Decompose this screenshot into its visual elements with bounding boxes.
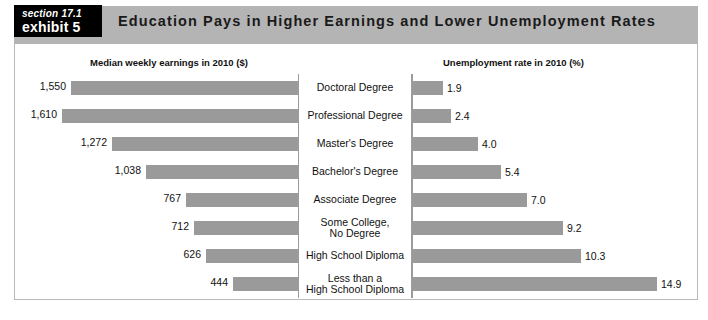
left-bar-cell: 444: [18, 270, 298, 298]
right-bar-cell: 14.9: [412, 270, 681, 298]
right-bar-fill: [412, 165, 501, 179]
category-label-cell: Less than a High School Diploma: [298, 270, 412, 298]
chart-row: 1,038Bachelor's Degree5.4: [0, 158, 708, 186]
left-bar-cell: 1,272: [18, 130, 298, 158]
left-bar-value: 1,610: [31, 108, 57, 120]
right-bar-value: 5.4: [505, 166, 520, 178]
right-bar-cell: 7.0: [412, 186, 546, 214]
category-label-cell: Some College, No Degree: [298, 214, 412, 242]
left-bar-cell: 1,610: [18, 102, 298, 130]
right-bar-fill: [412, 249, 581, 263]
category-label-cell: Bachelor's Degree: [298, 158, 412, 186]
right-bar-value: 4.0: [482, 138, 497, 150]
exhibit-title: Education Pays in Higher Earnings and Lo…: [118, 13, 656, 29]
left-bar-fill: [194, 221, 298, 235]
category-label: Doctoral Degree: [317, 82, 393, 94]
left-bar-fill: [233, 277, 298, 291]
left-bar-value: 1,038: [115, 164, 141, 176]
left-bar-value: 626: [183, 248, 201, 260]
left-bar: [206, 249, 298, 263]
left-bar-value: 767: [163, 192, 181, 204]
chart-row: 626High School Diploma10.3: [0, 242, 708, 270]
left-bar-fill: [146, 165, 298, 179]
badge-section-label: section 17.1: [22, 8, 82, 19]
right-bar-value: 1.9: [447, 82, 462, 94]
left-bar: [146, 165, 298, 179]
right-bar-fill: [412, 109, 451, 123]
left-bar-cell: 1,038: [18, 158, 298, 186]
left-bar-cell: 767: [18, 186, 298, 214]
left-column-header: Median weekly earnings in 2010 ($): [90, 57, 248, 68]
left-bar-value: 444: [210, 276, 228, 288]
right-column-header: Unemployment rate in 2010 (%): [443, 57, 584, 68]
left-bar-cell: 1,550: [18, 74, 298, 102]
right-bar-cell: 10.3: [412, 242, 605, 270]
left-bar-value: 712: [171, 220, 189, 232]
left-bar-value: 1,550: [40, 80, 66, 92]
right-bar-value: 7.0: [531, 194, 546, 206]
left-bar-fill: [112, 137, 298, 151]
exhibit-figure: section 17.1 exhibit 5 Education Pays in…: [0, 0, 708, 320]
exhibit-badge: section 17.1 exhibit 5: [14, 5, 102, 37]
category-label-cell: Professional Degree: [298, 102, 412, 130]
category-label-cell: High School Diploma: [298, 242, 412, 270]
left-bar-fill: [71, 81, 298, 95]
left-bar: [233, 277, 298, 291]
left-bar: [112, 137, 298, 151]
chart-row: 1,550Doctoral Degree1.9: [0, 74, 708, 102]
left-bar-fill: [206, 249, 298, 263]
chart-row: 1,272Master's Degree4.0: [0, 130, 708, 158]
left-bar: [194, 221, 298, 235]
category-label: High School Diploma: [306, 250, 404, 262]
category-label: Some College, No Degree: [321, 217, 390, 240]
right-bar-cell: 9.2: [412, 214, 582, 242]
right-bar-fill: [412, 221, 563, 235]
right-bar-fill: [412, 81, 443, 95]
chart-row: 1,610Professional Degree2.4: [0, 102, 708, 130]
chart-row: 767Associate Degree7.0: [0, 186, 708, 214]
right-bar-fill: [412, 277, 657, 291]
chart-row: 444Less than a High School Diploma14.9: [0, 270, 708, 298]
right-bar-value: 14.9: [661, 278, 681, 290]
right-bar-cell: 1.9: [412, 74, 462, 102]
right-bar-cell: 5.4: [412, 158, 520, 186]
left-bar: [71, 81, 298, 95]
category-label: Less than a High School Diploma: [306, 273, 404, 296]
left-bar-fill: [186, 193, 298, 207]
category-label-cell: Associate Degree: [298, 186, 412, 214]
right-bar-cell: 4.0: [412, 130, 497, 158]
category-label: Master's Degree: [317, 138, 394, 150]
right-bar-value: 9.2: [567, 222, 582, 234]
left-bar-value: 1,272: [81, 136, 107, 148]
category-label: Bachelor's Degree: [312, 166, 398, 178]
paired-bar-chart: 1,550Doctoral Degree1.91,610Professional…: [0, 74, 708, 298]
left-bar-cell: 626: [18, 242, 298, 270]
left-bar: [62, 109, 298, 123]
left-bar-fill: [62, 109, 298, 123]
right-bar-value: 2.4: [455, 110, 470, 122]
chart-row: 712Some College, No Degree9.2: [0, 214, 708, 242]
category-label-cell: Doctoral Degree: [298, 74, 412, 102]
right-bar-cell: 2.4: [412, 102, 470, 130]
right-bar-value: 10.3: [585, 250, 605, 262]
right-bar-fill: [412, 137, 478, 151]
left-bar: [186, 193, 298, 207]
badge-exhibit-label: exhibit 5: [22, 19, 81, 35]
category-label-cell: Master's Degree: [298, 130, 412, 158]
category-label: Professional Degree: [307, 110, 402, 122]
left-bar-cell: 712: [18, 214, 298, 242]
category-label: Associate Degree: [314, 194, 397, 206]
right-bar-fill: [412, 193, 527, 207]
